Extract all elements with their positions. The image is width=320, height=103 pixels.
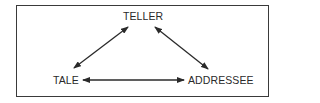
node-label-teller: TELLER: [123, 11, 163, 22]
edge-teller-addressee-arrow: [155, 27, 208, 69]
edge-tale-teller-arrow: [74, 27, 128, 68]
node-label-tale: TALE: [53, 75, 79, 86]
node-label-addressee: ADDRESSEE: [188, 75, 254, 86]
